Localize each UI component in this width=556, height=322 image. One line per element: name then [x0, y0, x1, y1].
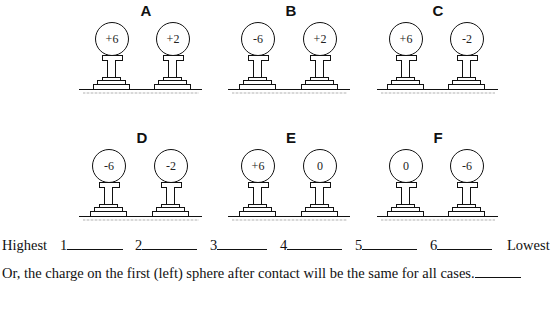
right-sphere: -2 [450, 22, 484, 56]
sphere-charge: -2 [166, 159, 176, 174]
lowest-label: Lowest [507, 237, 550, 254]
sphere-charge: -2 [462, 32, 472, 47]
rank-slot-6[interactable]: 6 [430, 237, 492, 254]
post [401, 187, 410, 205]
left-sphere-stand: +6 [238, 149, 278, 229]
ground-shadow [381, 92, 495, 94]
right-sphere: +2 [156, 22, 190, 56]
rank-slot-2[interactable]: 2 [135, 237, 197, 254]
left-sphere-stand: -6 [238, 22, 278, 102]
sphere-charge: -6 [462, 159, 472, 174]
sphere-charge: +6 [106, 32, 119, 47]
post [462, 60, 471, 78]
left-sphere-stand: +6 [92, 22, 132, 102]
group-e: E +6 0 [228, 130, 378, 230]
right-sphere: +2 [303, 22, 337, 56]
ground-shadow [83, 219, 199, 221]
rank-number: 5 [355, 237, 362, 253]
left-sphere: -6 [241, 22, 275, 56]
left-sphere-stand: +6 [386, 22, 426, 102]
post [462, 187, 471, 205]
right-sphere-stand: -2 [151, 149, 191, 229]
rank-number: 3 [210, 237, 217, 253]
ground-line [377, 216, 498, 217]
left-sphere: +6 [389, 22, 423, 56]
group-label: C [363, 3, 513, 18]
right-sphere-stand: -2 [447, 22, 487, 102]
post [107, 60, 116, 78]
group-c: C +6 -2 [377, 3, 527, 103]
sphere-charge: +2 [314, 32, 327, 47]
left-sphere-stand: 0 [386, 149, 426, 229]
group-f: F 0 -6 [377, 130, 527, 230]
answer-blank[interactable] [362, 237, 417, 250]
answer-blank[interactable] [475, 265, 521, 278]
sphere-charge: -6 [104, 159, 114, 174]
ground-line [79, 216, 202, 217]
post [315, 60, 324, 78]
ground-line [228, 216, 350, 217]
sphere-charge: +2 [167, 32, 180, 47]
ground-shadow [83, 92, 199, 94]
post [253, 60, 262, 78]
group-label: B [216, 3, 366, 18]
post [315, 187, 324, 205]
right-sphere: -2 [154, 149, 188, 183]
highest-label: Highest [2, 237, 47, 254]
ground-line [79, 89, 202, 90]
group-label: D [67, 130, 217, 145]
post [253, 187, 262, 205]
left-sphere-stand: -6 [89, 149, 129, 229]
right-sphere: -6 [450, 149, 484, 183]
left-sphere: -6 [92, 149, 126, 183]
group-label: E [216, 130, 366, 145]
group-b: B -6 +2 [228, 3, 378, 103]
ranking-line: Highest 1 2 3 4 5 6 Lowest [0, 237, 556, 255]
answer-blank[interactable] [142, 237, 197, 250]
answer-blank[interactable] [437, 237, 492, 250]
left-sphere: +6 [95, 22, 129, 56]
answer-blank[interactable] [217, 237, 267, 250]
ground-line [228, 89, 350, 90]
post [166, 187, 175, 205]
right-sphere-stand: 0 [300, 149, 340, 229]
group-label: A [71, 3, 221, 18]
right-sphere: 0 [303, 149, 337, 183]
sphere-charge: 0 [403, 159, 409, 174]
post [104, 187, 113, 205]
group-label: F [363, 130, 513, 145]
ground-line [377, 89, 498, 90]
rank-number: 6 [430, 237, 437, 253]
rank-number: 1 [60, 237, 67, 253]
left-sphere: 0 [389, 149, 423, 183]
sphere-charge: -6 [253, 32, 263, 47]
rank-slot-5[interactable]: 5 [355, 237, 417, 254]
group-d: D -6 -2 [79, 130, 229, 230]
ground-shadow [232, 92, 347, 94]
left-sphere: +6 [241, 149, 275, 183]
ground-shadow [232, 219, 347, 221]
sphere-charge: +6 [400, 32, 413, 47]
right-sphere-stand: -6 [447, 149, 487, 229]
rank-slot-3[interactable]: 3 [210, 237, 267, 254]
rank-number: 4 [280, 237, 287, 253]
answer-blank[interactable] [287, 237, 342, 250]
rank-slot-1[interactable]: 1 [60, 237, 123, 254]
sphere-charge: +6 [252, 159, 265, 174]
sphere-charge: 0 [317, 159, 323, 174]
ground-shadow [381, 219, 495, 221]
alternative-answer-line: Or, the charge on the first (left) spher… [2, 265, 521, 282]
alternative-text: Or, the charge on the first (left) spher… [2, 265, 475, 281]
rank-slot-4[interactable]: 4 [280, 237, 342, 254]
answer-blank[interactable] [67, 237, 123, 250]
right-sphere-stand: +2 [153, 22, 193, 102]
post [168, 60, 177, 78]
right-sphere-stand: +2 [300, 22, 340, 102]
post [401, 60, 410, 78]
group-a: A +6 +2 [79, 3, 229, 103]
rank-number: 2 [135, 237, 142, 253]
